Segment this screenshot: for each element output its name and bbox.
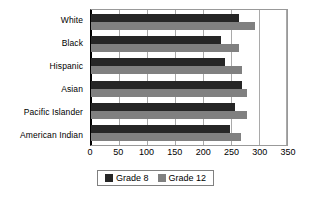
bar <box>91 44 239 52</box>
category-axis: WhiteBlackHispanicAsianPacific IslanderA… <box>0 9 87 146</box>
bar-group <box>91 33 287 55</box>
bar <box>91 22 255 30</box>
legend-entry[interactable]: Grade 8 <box>105 173 149 183</box>
bar <box>91 66 242 74</box>
plot-area <box>90 9 288 146</box>
value-tick-label: 350 <box>280 147 295 157</box>
legend-entry[interactable]: Grade 12 <box>158 173 207 183</box>
category-label: White <box>0 9 87 32</box>
value-tick-label: 200 <box>196 147 211 157</box>
legend-swatch-icon <box>105 174 113 182</box>
legend-swatch-icon <box>158 174 166 182</box>
bar-chart: WhiteBlackHispanicAsianPacific IslanderA… <box>0 0 310 198</box>
value-tick-label: 250 <box>224 147 239 157</box>
bar-group <box>91 122 287 144</box>
legend-label: Grade 8 <box>116 173 149 183</box>
category-label: Pacific Islander <box>0 100 87 123</box>
bar <box>91 58 225 66</box>
value-tick-label: 150 <box>167 147 182 157</box>
value-tick-label: 300 <box>252 147 267 157</box>
bar <box>91 125 230 133</box>
bar-group <box>91 100 287 122</box>
value-tick-label: 50 <box>113 147 123 157</box>
bar-group <box>91 11 287 33</box>
category-label: Black <box>0 32 87 55</box>
bar <box>91 81 242 89</box>
category-label: Asian <box>0 77 87 100</box>
legend-label: Grade 12 <box>169 173 207 183</box>
bar <box>91 103 235 111</box>
bar <box>91 111 247 119</box>
bar-groups <box>91 10 287 145</box>
category-label: American Indian <box>0 123 87 146</box>
bar-group <box>91 78 287 100</box>
bar <box>91 133 241 141</box>
value-tick-label: 0 <box>87 147 92 157</box>
value-tick-label: 100 <box>139 147 154 157</box>
bar <box>91 14 239 22</box>
value-axis: 050100150200250300350 <box>90 147 288 161</box>
bar <box>91 89 247 97</box>
bar <box>91 36 221 44</box>
category-label: Hispanic <box>0 55 87 78</box>
chart-legend: Grade 8Grade 12 <box>97 170 214 186</box>
bar-group <box>91 55 287 77</box>
